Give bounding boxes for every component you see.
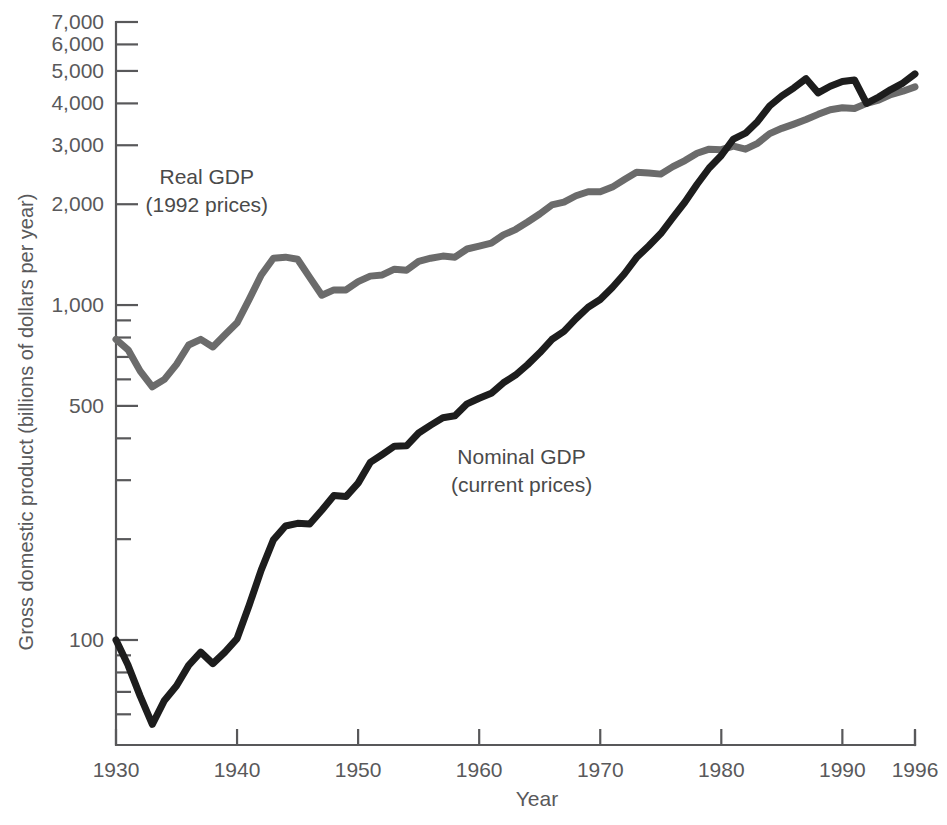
series-annotations-group: Real GDP(1992 prices)Nominal GDP(current… (146, 165, 593, 496)
y-axis-title: Gross domestic product (billions of doll… (15, 194, 37, 651)
y-tick-label: 6,000 (51, 32, 104, 55)
gdp-log-chart-figure: Gross domestic product (billions of doll… (0, 0, 947, 825)
y-tick-label: 2,000 (51, 192, 104, 215)
y-tick-label: 5,000 (51, 59, 104, 82)
annotation-real-gdp: Real GDP(1992 prices) (146, 165, 269, 216)
x-tick-label: 1980 (698, 758, 745, 781)
x-tick-label: 1970 (577, 758, 624, 781)
x-axis-title: Year (516, 787, 558, 810)
y-axis-title-group: Gross domestic product (billions of doll… (15, 194, 37, 651)
annotation-line-2: (current prices) (451, 473, 592, 496)
x-tick-label: 1996 (892, 758, 939, 781)
annotation-line-1: Nominal GDP (457, 445, 585, 468)
y-tick-label-group: 7,0006,0005,0004,0003,0002,0001,00050010… (51, 10, 104, 651)
x-tick-label-group: 19301940195019601970198019901996 (93, 758, 939, 781)
y-tick-label: 3,000 (51, 133, 104, 156)
y-tick-label: 100 (69, 628, 104, 651)
series-line (116, 87, 915, 387)
annotation-line-2: (1992 prices) (146, 193, 269, 216)
x-tick-label: 1990 (819, 758, 866, 781)
chart-canvas: Gross domestic product (billions of doll… (0, 0, 947, 825)
y-tick-label: 7,000 (51, 10, 104, 33)
y-tick-label: 4,000 (51, 91, 104, 114)
x-tick-label: 1950 (335, 758, 382, 781)
x-tick-label: 1960 (456, 758, 503, 781)
x-tick-label: 1940 (214, 758, 261, 781)
x-tick-label: 1930 (93, 758, 140, 781)
annotation-nominal-gdp: Nominal GDP(current prices) (451, 445, 592, 496)
y-tick-label: 1,000 (51, 293, 104, 316)
annotation-line-1: Real GDP (160, 165, 255, 188)
y-tick-label: 500 (69, 394, 104, 417)
